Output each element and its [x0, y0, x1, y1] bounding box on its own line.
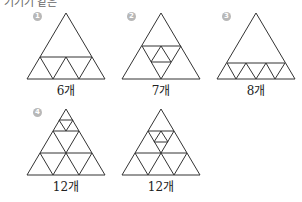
figure-5-label: 12개 — [131, 177, 191, 194]
figure-3-label: 8개 — [226, 81, 286, 98]
figure-2-number-badge: 2 — [127, 12, 136, 21]
figure-4-number-badge: 4 — [33, 108, 42, 117]
triangle-diagrams — [0, 0, 302, 202]
figure-5-triangle — [122, 109, 200, 175]
figure-3-triangle — [217, 13, 295, 79]
figure-4-label: 12개 — [36, 177, 96, 194]
figure-2-triangle — [122, 13, 200, 79]
figure-1-triangle — [27, 13, 105, 79]
figure-1-label: 6개 — [36, 81, 96, 98]
figure-4-triangle — [27, 109, 105, 175]
figure-2-label: 7개 — [131, 81, 191, 98]
figure-1-number-badge: 1 — [33, 12, 42, 21]
figure-3-number-badge: 3 — [222, 12, 231, 21]
